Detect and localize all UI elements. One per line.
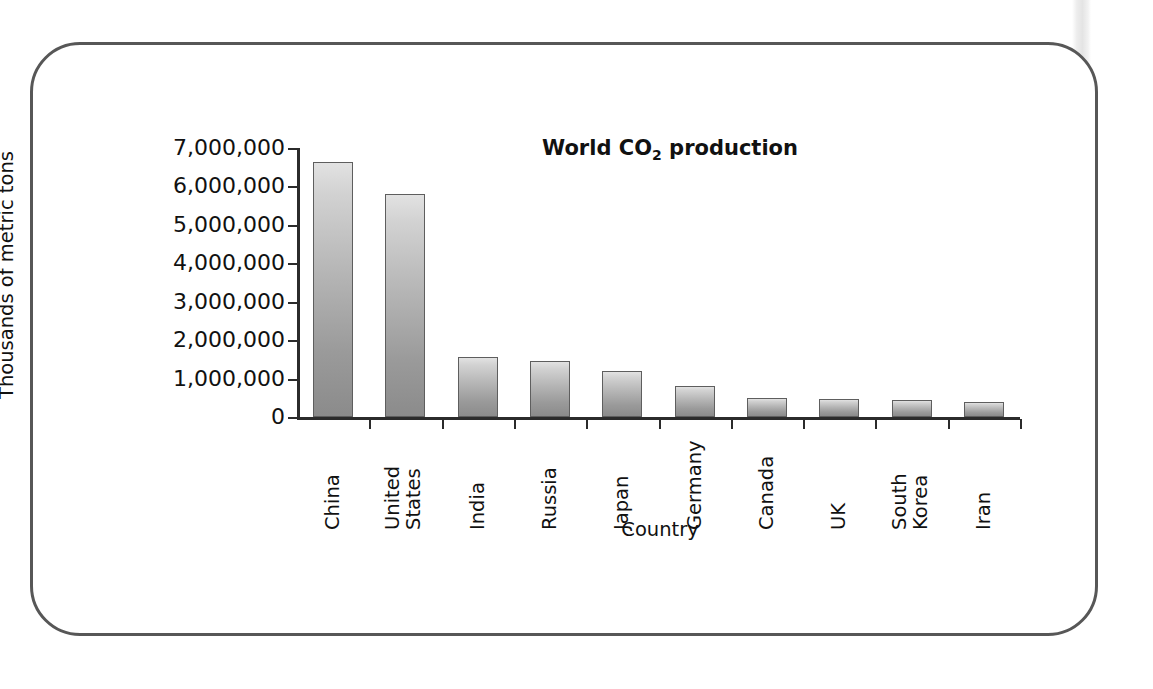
x-axis-category-label: Germany: [685, 420, 739, 530]
plot-area: [297, 148, 1020, 419]
y-axis-tick-mark: [288, 417, 297, 419]
x-axis-category-label: Japan: [612, 420, 666, 530]
bar: [602, 371, 642, 417]
y-axis-tick-label: 4,000,000: [145, 252, 285, 274]
y-axis-tick-mark: [288, 186, 297, 188]
y-axis-tick-mark: [288, 263, 297, 265]
y-axis-tick-label: 7,000,000: [145, 137, 285, 159]
y-axis-tick-label: 6,000,000: [145, 175, 285, 197]
y-axis-tick-labels: 7,000,0006,000,0005,000,0004,000,0003,00…: [145, 0, 285, 689]
y-axis-tick-mark: [288, 148, 297, 150]
bar-chart: Thousands of metric tons 7,000,0006,000,…: [0, 0, 1153, 689]
bar: [530, 361, 570, 417]
bar: [892, 400, 932, 417]
x-axis-category-label: Canada: [757, 420, 811, 530]
y-axis-tick-mark: [288, 379, 297, 381]
x-axis-title: Country: [540, 518, 780, 541]
bar-series: [297, 148, 1020, 419]
y-axis-tick-label: 3,000,000: [145, 291, 285, 313]
bar: [819, 399, 859, 417]
y-axis-tick-label: 5,000,000: [145, 214, 285, 236]
x-axis-category-label: Iran: [974, 420, 1028, 530]
x-axis-category-label: United States: [383, 420, 437, 530]
y-axis-tick-label: 2,000,000: [145, 329, 285, 351]
x-axis-category-label: Russia: [540, 420, 594, 530]
y-axis-tick-mark: [288, 225, 297, 227]
y-axis-tick-mark: [288, 302, 297, 304]
bar: [747, 398, 787, 417]
y-axis-tick-label: 0: [145, 406, 285, 428]
y-axis-title: Thousands of metric tons: [0, 125, 21, 425]
bar: [385, 194, 425, 417]
x-axis-category-label: South Korea: [890, 420, 944, 530]
bar: [458, 357, 498, 417]
bar: [964, 402, 1004, 417]
x-axis-category-label: India: [468, 420, 522, 530]
bar: [675, 386, 715, 417]
y-axis-tick-label: 1,000,000: [145, 368, 285, 390]
y-axis-tick-mark: [288, 340, 297, 342]
x-axis-category-label: China: [323, 420, 377, 530]
bar: [313, 162, 353, 417]
x-axis-category-label: UK: [829, 420, 883, 530]
